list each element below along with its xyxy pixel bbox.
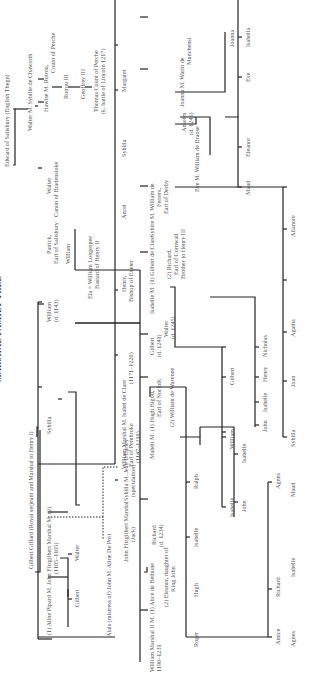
- person-margaret: Margaret: [120, 69, 127, 92]
- person-henry-bishop: Henry,: [120, 275, 127, 292]
- person-patrick: Patrick,: [45, 235, 52, 254]
- marriage-william-marshal-ii: William Marshal II M. (1) Alice de Béthu…: [148, 563, 155, 672]
- person-agnes-clare: Agnes: [274, 473, 281, 489]
- person-isabelle-ferrers: Isabelle: [289, 558, 296, 577]
- person-gilbert-giffard: Gilbert Giffard (Royal serjeant and Mars…: [27, 431, 34, 569]
- person-richard-cornwall-title: Earl of Cornwall: [172, 233, 179, 275]
- person-william-clare: William: [228, 429, 235, 449]
- family-tree-diagram: MARSHAL FAMILY TREE Edward of Salisbury …: [0, 0, 336, 677]
- person-gilbert-clare: Gilbert: [228, 367, 235, 385]
- person-john-dates: (1105–1165): [52, 542, 59, 574]
- person-henry-bishop-title: Bishop of Exeter: [127, 260, 134, 302]
- marriage-joanna-warin: Joanna M. Warin de: [178, 57, 185, 107]
- person-isabella-braose: Isabella: [244, 28, 251, 47]
- person-walter-d1245-note: (d. 1245): [169, 316, 176, 339]
- person-agnes-ferrers: Agnes: [289, 631, 296, 647]
- person-nicholas-cornwall: Nicholas: [261, 335, 268, 357]
- person-henry-cornwall: Henry: [261, 367, 268, 382]
- marriage-mahelt-bigod: Mahelt M. (1) Hugh Bigod,: [148, 391, 155, 459]
- person-ferrers-title: Earl of Derby: [162, 180, 169, 214]
- person-rotrou-iii: Rotrou III: [62, 74, 69, 99]
- person-jack-note: (Jack): [129, 527, 136, 542]
- person-john-cornwall: John: [261, 420, 268, 432]
- person-sybilla: Sybilla: [120, 139, 127, 157]
- marriage-sybire-ferrers: Sybire M. William de: [148, 183, 155, 237]
- person-ralph: Ralph: [192, 474, 199, 489]
- person-wm2-dates: 1190–1231: [155, 644, 162, 672]
- person-gilbert-d1241: Gilbert: [148, 337, 155, 355]
- person-ferrers-name: Ferrers,: [155, 188, 162, 207]
- person-bigod-title: Earl of Norfolk: [155, 379, 162, 417]
- marriage-alais-john: Alais (mistress of) John M. Aline De Por…: [105, 534, 112, 637]
- person-roger: Roger: [192, 632, 199, 647]
- person-william-marshal-title: Earl of Pembroke: [127, 423, 134, 467]
- person-isabelle-clare: Isabelle: [228, 498, 235, 517]
- person-william-salisbury: William: [64, 244, 71, 264]
- person-geoffrey-iii: Geoffrey III: [79, 69, 86, 99]
- person-richard-d1234: Richard: [150, 525, 157, 545]
- person-eleanor-braose: Eleanor: [244, 138, 251, 157]
- person-isabel-dates: (1171–1220): [127, 352, 134, 384]
- person-william-d1143-note: (d. 1143): [52, 300, 59, 322]
- person-amice: Amice: [274, 629, 281, 646]
- person-isabelle-bigod: Isabelle: [192, 528, 199, 547]
- person-eleanor-second-wife: (2) Eleanor, daughter of: [162, 548, 169, 607]
- person-eve-braose: Eve: [244, 72, 251, 82]
- person-munchensi: Munchensi: [185, 38, 192, 66]
- person-thomas-note: (k. battle of Lincoln 1217): [99, 49, 106, 114]
- person-isabelle-warenne: Isabelle: [240, 444, 247, 463]
- diagram-title: MARSHAL FAMILY TREE: [0, 276, 3, 382]
- marriage-hawise-rotrou: Hawise M. Rotrou,: [42, 65, 49, 112]
- person-patrick-title: Earl of Salisbury: [52, 222, 59, 264]
- person-ancel: Ancel: [120, 204, 127, 219]
- marriage-john-fitzgilbert: (1) Aline Pipard M. John Fitzgilbert Mar…: [45, 507, 52, 635]
- person-william-marshal-dates: (1147–1219): [134, 431, 141, 463]
- person-gilbert-d1241-note: (d. 1241): [155, 334, 162, 357]
- person-longespee-note: Bastard of Henry II: [93, 241, 100, 289]
- person-maud-braose: Maud: [244, 181, 251, 195]
- person-alianore-ferrers: Alianore: [289, 215, 296, 237]
- person-joan-ferrers: Joan: [289, 376, 296, 387]
- person-anselm-note: (d. 1245): [187, 112, 194, 135]
- person-anselm: Anselm: [180, 113, 187, 132]
- marriage-richard-cornwall: (2) Richard,: [165, 249, 172, 279]
- person-william-d1143: William: [45, 302, 52, 322]
- person-rotrou-title: Count of Perche: [49, 33, 56, 73]
- person-richard-cornwall-note: Brother to Henry III: [179, 229, 186, 279]
- person-john-warenne: John: [240, 500, 247, 512]
- person-gilbert: Gilbert: [73, 589, 80, 607]
- person-walter-canon-title: Canon of Bradenstoke: [52, 162, 59, 217]
- person-walter-d1245: Walter: [162, 321, 169, 337]
- person-edward-of-salisbury: Edward of Salisbury (English Thegn): [3, 74, 10, 167]
- person-sybilla-second-wife: Sybilla: [45, 416, 52, 434]
- marriage-walter-sybille: Walter M. Sybille de Chaworth: [26, 54, 33, 131]
- marriage-mahelt-warenne: (2) William de Warenne: [168, 368, 175, 427]
- marriage-william-isabel: William Marshal M. Isabel de Clare: [120, 380, 127, 469]
- person-isabelle-cornwall: Isabelle: [261, 393, 268, 412]
- person-thomas-perche: Thomas Count of Perche: [92, 50, 99, 112]
- person-sybilla-ferrers: Sybilla: [289, 429, 296, 447]
- person-john-fitz-jack: John Fitzgilbert Marshal: [122, 501, 129, 562]
- marriage-ela-longespee: Ela = William Longespee: [86, 236, 93, 299]
- marriage-isabelle-gilbert-de-clare: Isabelle M. (1) Gilbert de Clare: [148, 236, 155, 314]
- person-richard-d1234-note: (d. 1234): [157, 524, 164, 547]
- person-eleanor-note: King John: [169, 566, 176, 592]
- person-maud-ferrers: Maud: [289, 483, 296, 497]
- person-joanna-child: Joanna: [228, 30, 235, 47]
- person-walter-canon: Walter: [45, 178, 52, 194]
- person-richard-clare: Richard: [274, 577, 281, 597]
- speculation-note: (speculation): [129, 465, 136, 497]
- person-walter: Walter: [73, 545, 80, 561]
- person-hugh: Hugh: [192, 583, 199, 597]
- marriage-eve-braose: Eve M. William de Braose: [193, 126, 200, 192]
- person-agatha-ferrers: Agatha: [289, 319, 296, 337]
